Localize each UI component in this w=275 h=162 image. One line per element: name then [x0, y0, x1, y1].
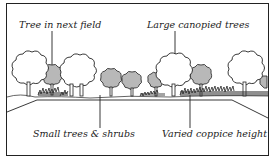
large-tree-left — [12, 51, 49, 85]
label-varied-coppice-height: Varied coppice height — [162, 129, 267, 139]
label-small-trees-shrubs: Small trees & shrubs — [33, 129, 135, 139]
field-edge-line — [7, 100, 268, 118]
grey-tree-small-1 — [100, 68, 121, 88]
hedgerow-diagram: Tree in next field Large canopied trees … — [0, 0, 275, 162]
large-tree-center-left — [60, 54, 97, 87]
large-tree-right — [228, 51, 265, 85]
label-large-canopied-trees: Large canopied trees — [147, 20, 249, 30]
grey-tree-small-2 — [122, 71, 142, 89]
grey-tree-medium — [190, 64, 211, 85]
large-canopied-tree — [156, 53, 193, 87]
label-tree-in-next-field: Tree in next field — [19, 20, 101, 30]
